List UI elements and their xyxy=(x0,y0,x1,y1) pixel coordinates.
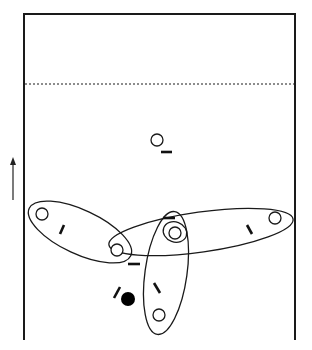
ball-marker xyxy=(114,287,120,298)
player-orientation-marker xyxy=(154,283,160,293)
players xyxy=(36,134,281,321)
court-diagram xyxy=(0,0,312,350)
player-circle-icon xyxy=(169,227,181,239)
player-p-right xyxy=(247,212,281,234)
arrow-head-icon xyxy=(10,157,16,165)
player-circle-icon xyxy=(269,212,281,224)
ball-icon xyxy=(114,287,135,306)
player-circle-icon xyxy=(36,208,48,220)
player-p-center xyxy=(163,218,181,239)
player-orientation-marker xyxy=(247,225,252,234)
player-p-bottom xyxy=(153,283,165,321)
player-p-left xyxy=(36,208,64,234)
group-midleft-right xyxy=(106,199,296,264)
ball-dot xyxy=(121,292,135,306)
player-circle-icon xyxy=(153,309,165,321)
direction-arrow-icon xyxy=(10,157,16,200)
player-circle-icon xyxy=(111,244,123,256)
player-p-top xyxy=(151,134,172,152)
player-orientation-marker xyxy=(60,225,64,234)
diagram-canvas: Volleyball rotation / formation diagram xyxy=(0,0,312,350)
group-center-bottom xyxy=(137,209,196,338)
player-circle-icon xyxy=(151,134,163,146)
